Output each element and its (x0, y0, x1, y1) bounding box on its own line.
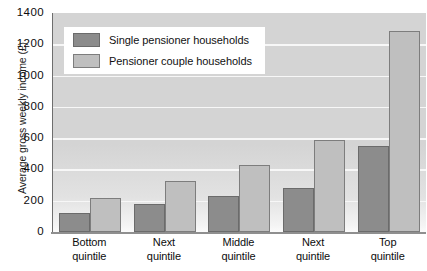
y-tick-label: 1000 (17, 70, 44, 82)
bar (283, 188, 314, 232)
bar (90, 198, 121, 232)
y-tick-label: 400 (24, 164, 44, 176)
chart-legend: Single pensioner householdsPensioner cou… (64, 27, 265, 74)
bar (239, 165, 270, 232)
bar (314, 140, 345, 232)
legend-swatch-icon (73, 54, 100, 68)
x-tick-label: Nextquintile (276, 236, 351, 264)
y-tick-label: 1400 (17, 7, 44, 19)
x-tick-label-line: quintile (127, 250, 202, 264)
x-tick-label-line: Middle (201, 236, 276, 250)
bar (358, 146, 389, 232)
x-tick-label-line: quintile (350, 250, 425, 264)
bar (59, 213, 90, 232)
bar-chart: Average gross weekly income (£) 14001200… (0, 0, 427, 271)
legend-item[interactable]: Single pensioner households (73, 33, 252, 47)
bar-group (351, 13, 426, 232)
x-tick-label-line: Next (127, 236, 202, 250)
x-tick-label: Bottomquintile (52, 236, 127, 264)
y-tick-label: 0 (37, 226, 44, 238)
bar (389, 31, 420, 232)
bar-group (277, 13, 352, 232)
x-tick-label-line: Next (276, 236, 351, 250)
x-tick-label-line: Bottom (52, 236, 127, 250)
legend-item-label: Single pensioner households (109, 34, 249, 46)
x-tick-label-line: quintile (201, 250, 276, 264)
x-tick-label-line: quintile (276, 250, 351, 264)
y-tick-label: 200 (24, 195, 44, 207)
y-axis-tick-labels: 1400120010008006004002000 (0, 0, 48, 271)
y-tick-label: 1200 (17, 39, 44, 51)
bar (134, 204, 165, 232)
legend-swatch-icon (73, 33, 100, 47)
x-tick-label: Middlequintile (201, 236, 276, 264)
x-tick-label: Topquintile (350, 236, 425, 264)
legend-item[interactable]: Pensioner couple households (73, 54, 252, 68)
x-tick-label: Nextquintile (127, 236, 202, 264)
bar (208, 196, 239, 232)
y-tick-label: 800 (24, 101, 44, 113)
x-axis-tick-labels: BottomquintileNextquintileMiddlequintile… (52, 236, 425, 271)
y-tick-label: 600 (24, 132, 44, 144)
bar (165, 181, 196, 232)
x-axis-line (51, 232, 426, 234)
x-tick-label-line: quintile (52, 250, 127, 264)
legend-item-label: Pensioner couple households (109, 55, 252, 67)
x-tick-label-line: Top (350, 236, 425, 250)
